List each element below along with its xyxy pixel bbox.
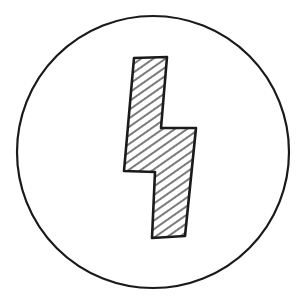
- lightning-bolt-icon: [124, 57, 196, 238]
- lightning-bolt-emblem: [0, 0, 304, 303]
